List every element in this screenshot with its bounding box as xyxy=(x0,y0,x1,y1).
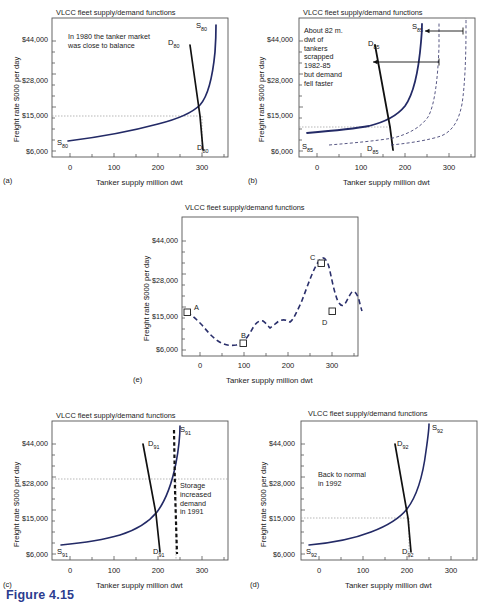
panel-b: VLCC fleet supply/demand functions Freig… xyxy=(245,0,495,195)
panel-c-plot xyxy=(0,395,245,598)
panel-b-plot xyxy=(245,0,495,195)
panel-a: VLCC fleet supply/demand functions Freig… xyxy=(0,0,245,195)
panel-d-plot xyxy=(245,395,495,598)
figure-caption: Figure 4.15 xyxy=(6,588,74,602)
panel-e: VLCC fleet supply/demand functions Freig… xyxy=(130,195,380,395)
panel-c: VLCC fleet supply/demand functions Freig… xyxy=(0,395,245,598)
panel-d: VLCC fleet supply/demand functions Freig… xyxy=(245,395,495,598)
panel-e-plot xyxy=(130,195,380,395)
panel-a-plot xyxy=(0,0,245,195)
